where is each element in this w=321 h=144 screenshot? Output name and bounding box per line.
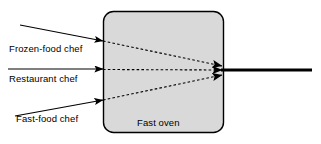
diagram-canvas: Frozen-food chef Restaurant chef Fast-fo… [0, 0, 321, 144]
frozen-food-chef-label: Frozen-food chef [9, 44, 82, 54]
restaurant-chef-label: Restaurant chef [9, 74, 78, 84]
fast-oven-label: Fast oven [137, 118, 180, 128]
frozen-food-chef-arrow [20, 25, 103, 41]
fast-oven-box [104, 12, 224, 133]
fast-food-chef-label: Fast-food chef [16, 114, 78, 124]
